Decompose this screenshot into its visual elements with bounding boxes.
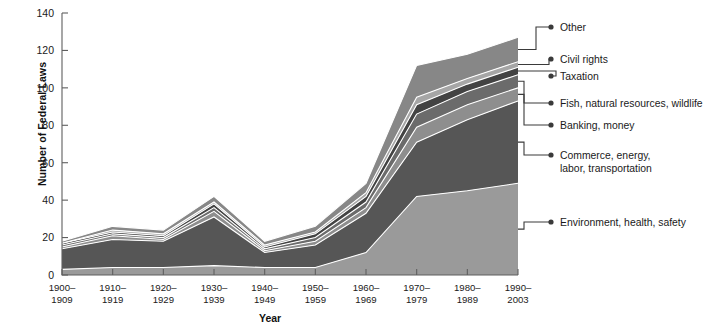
legend-label[interactable]: Fish, natural resources, wildlife bbox=[560, 98, 703, 109]
x-tick-label: 1980– bbox=[454, 282, 481, 293]
legend-marker-dot bbox=[548, 24, 553, 29]
legend-marker-dot bbox=[548, 219, 553, 224]
x-tick-label: 1990– bbox=[505, 282, 532, 293]
x-tick-label: 1960– bbox=[353, 282, 380, 293]
legend-label[interactable]: Environment, health, safety bbox=[560, 217, 687, 228]
x-tick-label: 1910– bbox=[99, 282, 126, 293]
legend-leader-line bbox=[518, 142, 550, 155]
legend-marker-dot bbox=[548, 152, 553, 157]
x-axis-title: Year bbox=[259, 312, 281, 324]
legend-marker-dot bbox=[548, 100, 553, 105]
legend-label[interactable]: Commerce, energy, bbox=[560, 150, 650, 161]
x-tick-label: 1949 bbox=[254, 294, 275, 305]
x-tick-label: 1900– bbox=[49, 282, 76, 293]
x-tick-label: 1920– bbox=[150, 282, 177, 293]
x-tick-labels: 1900–19091910–19191920–19291930–19391940… bbox=[49, 282, 532, 305]
x-tick-label: 1950– bbox=[302, 282, 329, 293]
legend-marker-dot bbox=[548, 122, 553, 127]
legend-group: OtherCivil rightsTaxationFish, natural r… bbox=[518, 22, 703, 229]
x-tick-label: 1979 bbox=[406, 294, 427, 305]
y-axis-title: Number of Federal Laws bbox=[36, 44, 48, 204]
legend-marker-dot bbox=[548, 56, 553, 61]
x-tick-label: 1969 bbox=[355, 294, 376, 305]
legend-label[interactable]: Taxation bbox=[560, 71, 599, 82]
legend-label[interactable]: Banking, money bbox=[560, 120, 635, 131]
x-tick-label: 1940– bbox=[251, 282, 278, 293]
x-tick-label: 1959 bbox=[305, 294, 326, 305]
chart-root: Number of Federal Laws Year 020406080100… bbox=[0, 0, 708, 332]
x-tick-label: 1939 bbox=[203, 294, 224, 305]
stacked-area-chart: 020406080100120140 1900–19091910–1919192… bbox=[0, 0, 708, 332]
legend-label[interactable]: labor, transportation bbox=[560, 163, 652, 174]
x-tick-label: 1919 bbox=[102, 294, 123, 305]
x-tick-label: 1929 bbox=[153, 294, 174, 305]
legend-label[interactable]: Other bbox=[560, 22, 587, 33]
y-tick-label: 20 bbox=[42, 231, 54, 243]
x-tick-label: 1970– bbox=[403, 282, 430, 293]
x-tick-label: 1909 bbox=[51, 294, 72, 305]
legend-leader-line bbox=[518, 94, 550, 125]
legend-leader-line bbox=[518, 27, 550, 49]
y-tick-label: 0 bbox=[48, 269, 54, 281]
legend-leader-line bbox=[518, 59, 550, 64]
legend-leader-line bbox=[518, 222, 550, 229]
y-tick-label: 140 bbox=[36, 7, 54, 19]
x-tick-label: 1989 bbox=[457, 294, 478, 305]
legend-leader-line bbox=[518, 81, 550, 103]
x-tick-label: 1930– bbox=[201, 282, 228, 293]
legend-label[interactable]: Civil rights bbox=[560, 54, 608, 65]
x-tick-label: 2003 bbox=[507, 294, 528, 305]
area-series-group bbox=[62, 37, 518, 275]
legend-marker-dot bbox=[548, 73, 553, 78]
